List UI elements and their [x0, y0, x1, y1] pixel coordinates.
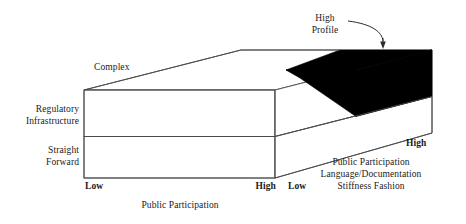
side-axis-tick-high: High: [406, 138, 426, 150]
figure-canvas: Complex Regulatory Infrastructure Straig…: [0, 0, 466, 224]
label-complex: Complex: [94, 62, 130, 74]
label-straight-line2: Forward: [46, 156, 79, 168]
label-regulatory-line2: Infrastructure: [26, 115, 79, 127]
label-regulatory-infrastructure: Regulatory Infrastructure: [26, 103, 79, 127]
label-regulatory-line1: Regulatory: [26, 103, 79, 115]
label-straight-line1: Straight: [46, 144, 79, 156]
side-axis-title-line1: Public Participation: [321, 156, 422, 168]
label-straight-forward: Straight Forward: [46, 144, 79, 168]
callout-line2: Profile: [312, 24, 339, 36]
front-face-upper-band: [84, 90, 275, 137]
high-profile-callout-label: High Profile: [312, 12, 339, 36]
side-axis-title-line3: Stiffness Fashion: [321, 180, 422, 192]
side-axis-title: Public Participation Language/Documentat…: [321, 156, 422, 192]
side-axis-title-line2: Language/Documentation: [321, 168, 422, 180]
side-axis-tick-low: Low: [288, 181, 306, 193]
front-axis-tick-high: High: [256, 181, 276, 193]
front-face-lower-band: [84, 137, 275, 179]
front-axis-tick-low: Low: [85, 181, 103, 193]
high-profile-callout-arrow: [348, 21, 383, 41]
front-axis-title: Public Participation: [141, 200, 218, 212]
callout-line1: High: [312, 12, 339, 24]
